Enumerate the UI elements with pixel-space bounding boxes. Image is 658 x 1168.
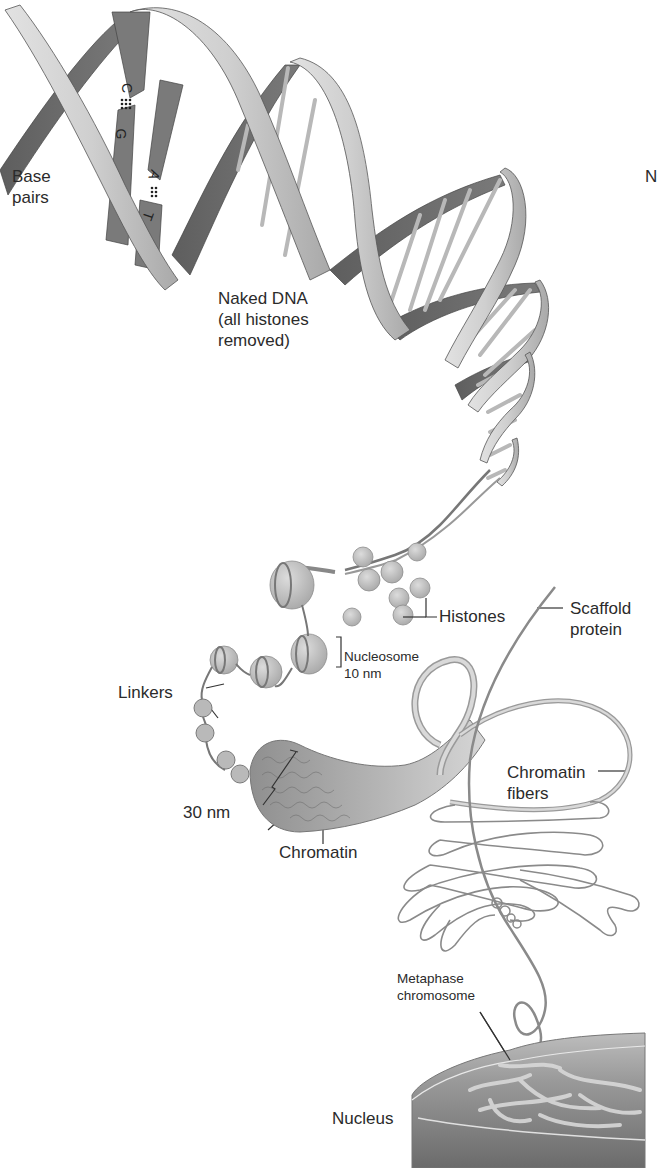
label-line: Nucleosome [344, 648, 419, 665]
label-chromatin: Chromatin [279, 842, 357, 863]
label-naked-dna: Naked DNA (all histones removed) [218, 288, 309, 351]
base-letter-c: C [119, 83, 135, 93]
label-line: fibers [507, 783, 585, 804]
label-metaphase-chromosome: Metaphase chromosome [397, 970, 475, 1004]
label-line: (all histones [218, 309, 309, 330]
label-base-pairs: Base pairs [12, 166, 51, 208]
label-nucleus: Nucleus [332, 1108, 393, 1129]
edge-fragment-text: N [645, 166, 657, 187]
label-line: Chromatin [507, 762, 585, 783]
label-nucleosome: Nucleosome 10 nm [344, 648, 419, 682]
label-scaffold-protein: Scaffold protein [570, 598, 631, 640]
label-chromatin-fibers: Chromatin fibers [507, 762, 585, 804]
label-line: removed) [218, 330, 309, 351]
helix-rungs [238, 68, 535, 478]
chromatin-fiber [250, 720, 485, 832]
label-line: Naked DNA [218, 288, 309, 309]
label-histones: Histones [439, 606, 505, 627]
base-letter-g: G [113, 129, 129, 140]
label-line: protein [570, 619, 631, 640]
label-linkers: Linkers [118, 682, 173, 703]
label-line: Scaffold [570, 598, 631, 619]
label-line: chromosome [397, 987, 475, 1004]
label-line: Metaphase [397, 970, 475, 987]
label-line: pairs [12, 187, 51, 208]
label-line: Base [12, 166, 51, 187]
label-30nm: 30 nm [183, 802, 230, 823]
dna-packaging-illustration [0, 0, 658, 1168]
label-line: 10 nm [344, 665, 419, 682]
histone-cluster [343, 543, 430, 626]
nucleus-illustration [412, 1033, 645, 1168]
